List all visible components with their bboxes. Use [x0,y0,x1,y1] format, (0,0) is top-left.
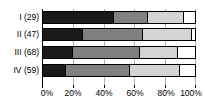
bars-container [42,9,196,85]
x-axis-label-20: 20% [64,88,81,99]
y-axis-label-4: IV (59) [0,65,39,75]
y-axis-label-3: III (68) [0,47,39,57]
table-row [42,64,196,77]
bar-segment-2 [83,29,144,40]
x-axis-label-0: 0% [41,88,53,99]
bar-segment-3 [140,47,178,58]
bar-segment-1 [43,12,114,23]
stacked-bar-chart: I (29) II (47) III (68) IV (59) [0,0,205,110]
bar-segment-4 [178,47,195,58]
bar-segment-1 [43,47,73,58]
bar-segment-3 [148,12,184,23]
plot-area [42,9,196,85]
bar-segment-3 [130,65,180,76]
bar-segment-3 [143,29,192,40]
x-axis-labels: 0% 20% 40% 60% 80% 100% [42,88,196,102]
x-axis-label-60: 60% [126,88,143,99]
bar-segment-4 [184,12,195,23]
x-axis-label-80: 80% [157,88,174,99]
bar-segment-4 [192,29,195,40]
x-axis-label-40: 40% [95,88,112,99]
table-row [42,28,196,41]
y-axis-label-2: II (47) [0,29,39,39]
bar-segment-2 [66,65,130,76]
bar-segment-4 [180,65,195,76]
y-axis-labels: I (29) II (47) III (68) IV (59) [0,9,40,85]
bar-segment-1 [43,29,83,40]
x-axis-label-100: 100% [180,88,202,99]
bar-segment-2 [114,12,147,23]
bar-segment-1 [43,65,66,76]
y-axis-label-1: I (29) [0,12,39,22]
bar-segment-2 [73,47,140,58]
table-row [42,11,196,24]
table-row [42,46,196,59]
